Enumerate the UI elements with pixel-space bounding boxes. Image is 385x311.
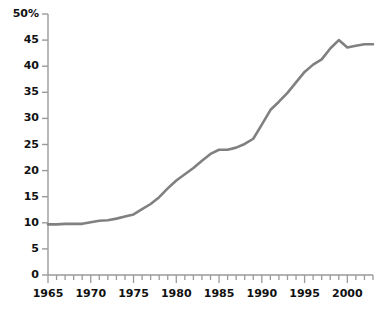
y-tick-label: 20: [24, 164, 39, 177]
y-tick-label: 30: [24, 111, 39, 124]
y-tick-label: 50%: [13, 7, 39, 20]
data-series-group: [48, 40, 373, 224]
y-tick-label: 5: [31, 242, 39, 255]
y-tick-marks: [42, 14, 48, 275]
x-tick-label: 2000: [322, 287, 372, 300]
y-tick-label: 15: [24, 190, 39, 203]
y-tick-label: 35: [24, 85, 39, 98]
y-tick-label: 10: [24, 216, 39, 229]
y-tick-label: 0: [31, 268, 39, 281]
x-tick-marks: [48, 275, 373, 283]
chart-canvas: [0, 0, 385, 311]
series-line-0: [48, 40, 373, 224]
y-tick-label: 25: [24, 138, 39, 151]
y-tick-label: 45: [24, 33, 39, 46]
y-tick-label: 40: [24, 59, 39, 72]
axes-group: [48, 14, 373, 275]
line-chart: 50%454035302520151050 196519701975198019…: [0, 0, 385, 311]
